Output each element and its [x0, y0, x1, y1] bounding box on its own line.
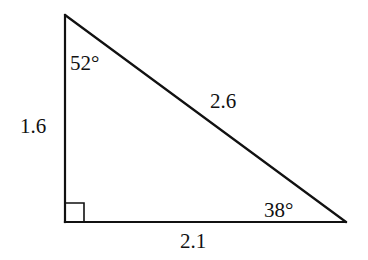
right-angle-marker [65, 203, 84, 222]
side-label-hypotenuse: 2.6 [210, 89, 236, 113]
triangle-diagram: 52° 38° 1.6 2.6 2.1 [0, 0, 368, 260]
hypotenuse-line [65, 15, 346, 222]
angle-label-right: 38° [264, 198, 293, 222]
side-label-bottom-leg: 2.1 [180, 229, 206, 253]
angle-label-top: 52° [70, 51, 99, 75]
side-label-left-leg: 1.6 [20, 114, 46, 138]
